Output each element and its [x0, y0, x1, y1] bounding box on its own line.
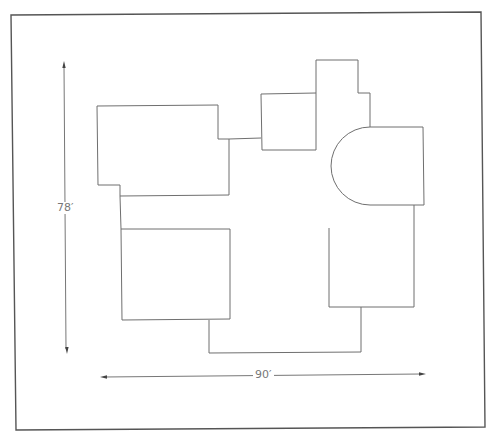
arrow-right-icon — [419, 372, 426, 375]
height-dimension-label: 78′ — [55, 202, 76, 214]
arrow-down-icon — [65, 347, 68, 354]
lower-left-room — [121, 229, 230, 320]
upper-middle-room — [261, 93, 316, 150]
upper-left-room — [97, 105, 229, 196]
floor-plan-diagram — [0, 0, 496, 438]
left-connecting-wall — [120, 196, 121, 229]
semicircular-room — [331, 127, 424, 205]
corridor-link — [229, 138, 261, 139]
arrow-left-icon — [100, 375, 107, 378]
width-dimension-label: 90′ — [253, 369, 274, 381]
upper-tower-room — [316, 60, 370, 127]
bottom-connector — [209, 307, 361, 353]
arrow-up-icon — [62, 61, 65, 68]
lower-right-room — [329, 205, 414, 307]
